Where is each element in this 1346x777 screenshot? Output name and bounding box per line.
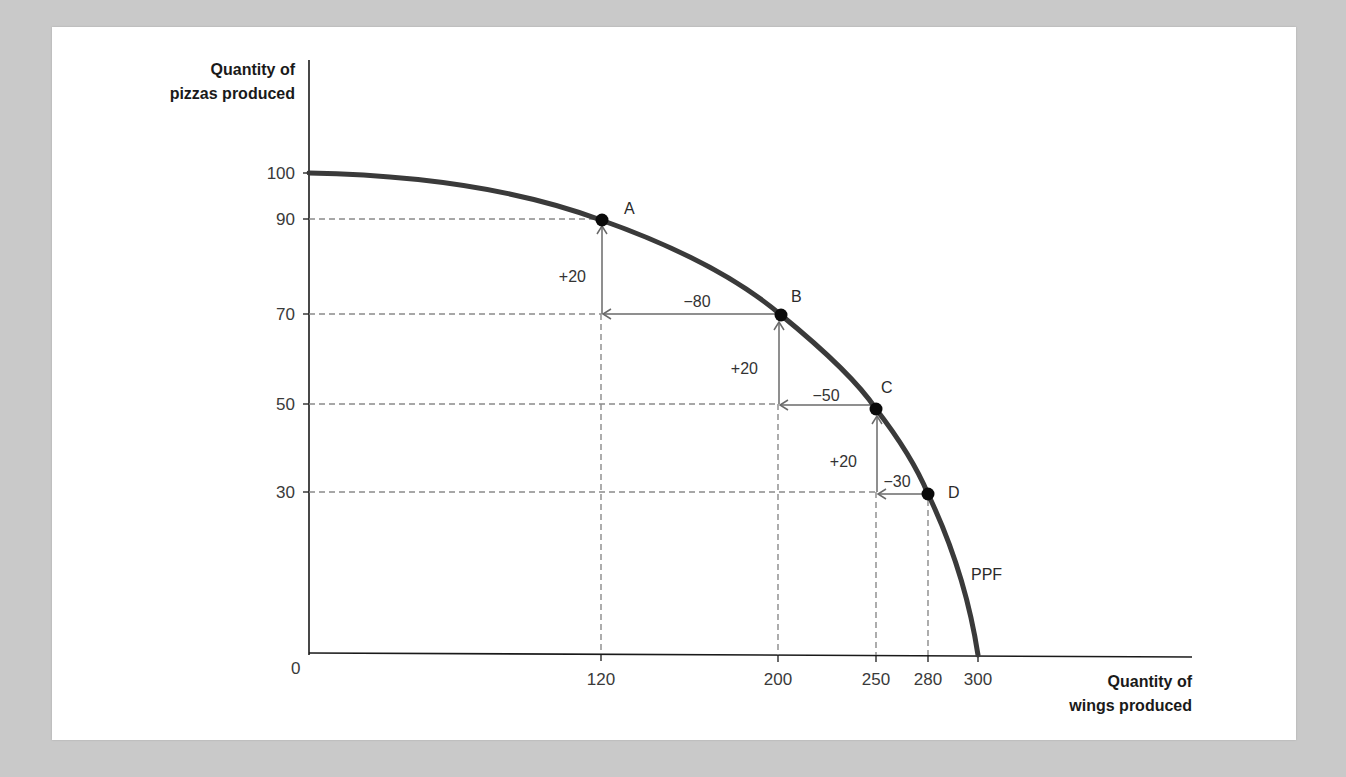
y-axis-title-line2: pizzas produced	[170, 85, 295, 102]
point-c-label: C	[881, 379, 893, 396]
y-tick-label: 30	[276, 483, 295, 502]
x-axis	[309, 653, 1192, 657]
ppf-label: PPF	[971, 566, 1002, 583]
delta-label: −50	[812, 387, 839, 404]
point-a	[596, 214, 609, 227]
point-b-label: B	[791, 288, 802, 305]
delta-label: −80	[683, 293, 710, 310]
ppf-chart: Quantity of pizzas produced Quantity of …	[0, 0, 1346, 777]
y-axis-title-line1: Quantity of	[211, 61, 296, 78]
delta-label: +20	[559, 268, 586, 285]
point-c	[870, 403, 883, 416]
origin-label: 0	[291, 659, 300, 678]
x-tick-label: 200	[764, 670, 792, 689]
y-ticks	[303, 173, 309, 492]
x-tick-label: 300	[964, 670, 992, 689]
y-tick-label: 50	[276, 395, 295, 414]
y-tick-label: 100	[267, 164, 295, 183]
dashed-guides	[309, 219, 928, 655]
x-tick-label: 120	[587, 670, 615, 689]
x-tick-label: 280	[914, 670, 942, 689]
delta-label: +20	[731, 360, 758, 377]
x-tick-label: 250	[862, 670, 890, 689]
point-b	[775, 309, 788, 322]
point-d	[922, 488, 935, 501]
y-tick-label: 90	[276, 210, 295, 229]
x-axis-title-line2: wings produced	[1068, 697, 1192, 714]
delta-label: +20	[830, 453, 857, 470]
point-d-label: D	[948, 484, 960, 501]
y-tick-label: 70	[276, 305, 295, 324]
delta-label: −30	[883, 473, 910, 490]
tradeoff-arrows	[597, 226, 922, 499]
point-a-label: A	[624, 200, 635, 217]
x-axis-title-line1: Quantity of	[1108, 673, 1193, 690]
